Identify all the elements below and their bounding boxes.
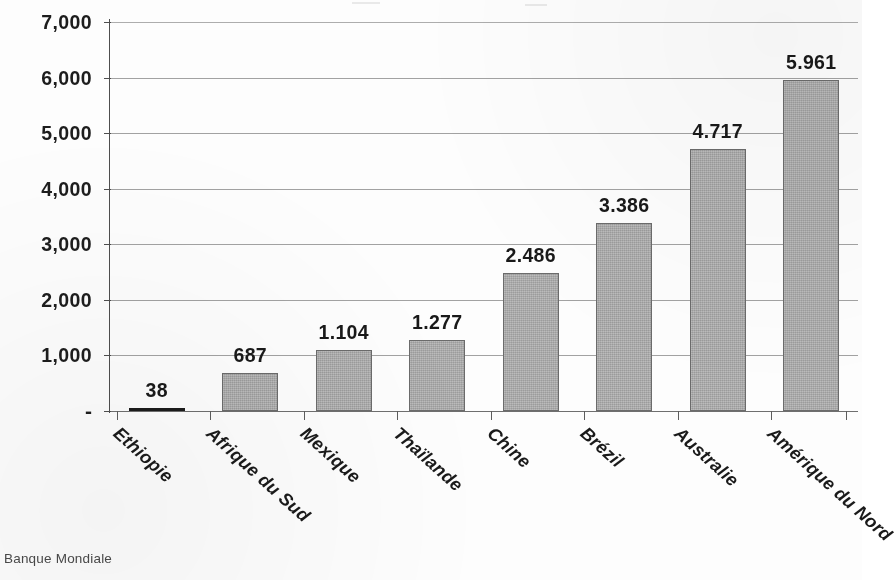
y-axis-tick-label: 6,000	[41, 66, 92, 89]
y-axis-tick-label: 2,000	[41, 288, 92, 311]
bar[interactable]	[316, 350, 372, 411]
y-axis-tick-label: -	[85, 399, 92, 423]
bar-value-label: 2.486	[506, 244, 556, 267]
bar-group: 1.277	[391, 22, 485, 411]
bar[interactable]	[503, 273, 559, 411]
bar[interactable]	[596, 223, 652, 411]
x-axis-labels: EthiopieAfrique du SudMexiqueThaïlandeCh…	[110, 411, 858, 571]
bar-value-label: 1.277	[412, 311, 462, 334]
bar[interactable]	[690, 149, 746, 411]
x-axis-tick-label: Amérique du Nord	[763, 423, 896, 546]
bar[interactable]	[409, 340, 465, 411]
bar-group: 38	[110, 22, 204, 411]
x-axis-tick-label: Mexique	[296, 423, 365, 488]
x-axis-tick-label: Brézil	[576, 423, 627, 472]
y-axis-tick-label: 3,000	[41, 233, 92, 256]
bar-value-label: 687	[234, 344, 267, 367]
bar[interactable]	[222, 373, 278, 411]
y-axis-tick-label: 5,000	[41, 122, 92, 145]
bar-value-label: 38	[146, 379, 168, 402]
source-caption: Banque Mondiale	[4, 551, 112, 566]
bar-group: 4.717	[671, 22, 765, 411]
bar-value-label: 5.961	[786, 51, 836, 74]
y-axis-tick-label: 4,000	[41, 177, 92, 200]
bar[interactable]	[783, 80, 839, 411]
x-axis-tick-label: Chine	[483, 423, 535, 473]
x-axis-tick-label: Ethiopie	[109, 423, 177, 487]
y-axis-tick-label: 7,000	[41, 11, 92, 34]
plot-area: 386871.1041.2772.4863.3864.7175.961	[110, 22, 858, 411]
y-axis-labels: -1,0002,0003,0004,0005,0006,0007,000	[0, 0, 100, 580]
bar-value-label: 3.386	[599, 194, 649, 217]
scan-artifact	[352, 2, 380, 4]
bar-value-label: 4.717	[693, 120, 743, 143]
scan-artifact	[525, 4, 547, 6]
x-axis-tick-label: Thaïlande	[389, 423, 467, 496]
bar-group: 687	[204, 22, 298, 411]
bar-group: 1.104	[297, 22, 391, 411]
bar-group: 2.486	[484, 22, 578, 411]
bar-value-label: 1.104	[319, 321, 369, 344]
bar-group: 5.961	[765, 22, 859, 411]
x-axis-tick-label: Australie	[670, 423, 743, 491]
bar-group: 3.386	[578, 22, 672, 411]
y-axis-tick-label: 1,000	[41, 344, 92, 367]
